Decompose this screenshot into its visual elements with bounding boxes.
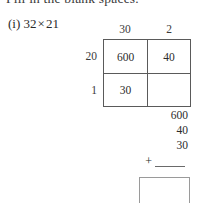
addend-0: 600 [128, 108, 188, 123]
grid-cell-0-0[interactable]: 600 [104, 40, 147, 73]
area-model-row-labels: 20 1 [72, 39, 100, 107]
addend-2: 30 [128, 138, 188, 153]
addition-column: 600 40 30 + [128, 108, 188, 171]
column-header-0: 30 [103, 23, 147, 35]
problem-label: (i) 32×21 [8, 16, 59, 32]
addend-1: 40 [128, 123, 188, 138]
column-header-1: 2 [147, 23, 191, 35]
worksheet-page: Fill in the blank spaces. (i) 32×21 30 2… [0, 0, 202, 203]
blank-answer-rule[interactable] [155, 166, 185, 167]
area-model-grid: 600 40 30 [103, 39, 191, 107]
grid-cell-1-0[interactable]: 30 [104, 73, 147, 106]
answer-box[interactable] [139, 177, 190, 203]
row-label-1: 1 [72, 73, 100, 107]
factor-a: 32 [24, 16, 37, 31]
problem-number: (i) [8, 16, 20, 31]
instruction-text: Fill in the blank spaces. [6, 0, 139, 7]
factor-b: 21 [46, 16, 59, 31]
row-label-0: 20 [72, 39, 100, 73]
plus-icon: + [145, 154, 152, 168]
multiplication-sign: × [37, 16, 46, 31]
addition-blank-row[interactable]: + [128, 154, 188, 171]
grid-cell-0-1[interactable]: 40 [147, 40, 190, 73]
grid-cell-1-1[interactable] [147, 73, 190, 106]
area-model-column-headers: 30 2 [103, 23, 191, 35]
